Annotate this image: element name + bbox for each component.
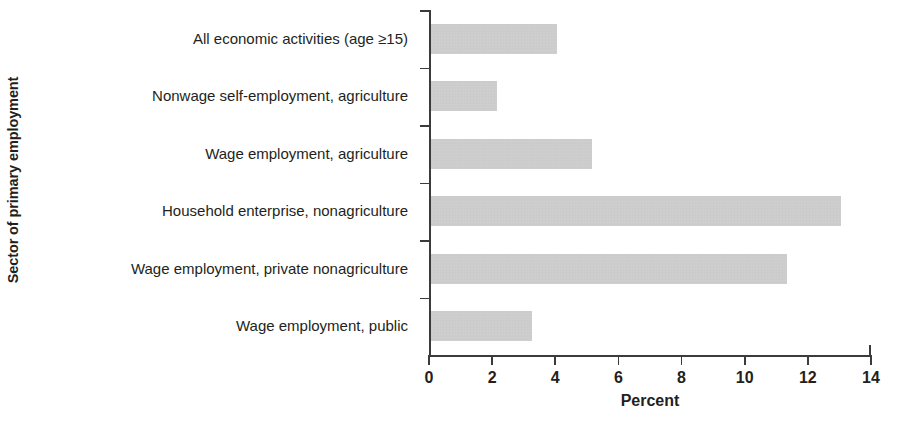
plot-area: 02468101214 <box>429 10 871 355</box>
bar <box>431 24 557 54</box>
bar <box>431 196 841 226</box>
x-axis-title: Percent <box>429 392 871 410</box>
x-axis-tick-label: 0 <box>404 369 454 387</box>
bar <box>431 254 788 284</box>
bar <box>431 81 497 111</box>
y-axis-tick <box>420 240 429 242</box>
x-axis-tick-label: 2 <box>467 369 517 387</box>
y-axis-title: Sector of primary employment <box>0 0 26 360</box>
x-axis-tick <box>870 355 872 365</box>
y-axis-title-text: Sector of primary employment <box>5 77 21 284</box>
category-label-list: All economic activities (age ≥15)Nonwage… <box>30 10 416 347</box>
x-axis-tick-label: 12 <box>783 369 833 387</box>
category-label: All economic activities (age ≥15) <box>193 29 408 49</box>
category-label: Wage employment, agriculture <box>205 144 408 164</box>
y-axis-tick <box>420 298 429 300</box>
category-label: Household enterprise, nonagriculture <box>162 201 408 221</box>
y-axis-top-cap <box>420 10 430 12</box>
x-axis-tick <box>681 355 683 365</box>
x-axis-tick-label: 10 <box>720 369 770 387</box>
x-axis-tick <box>618 355 620 365</box>
x-axis-tick-label: 14 <box>846 369 896 387</box>
bar <box>431 311 532 341</box>
category-label: Wage employment, private nonagriculture <box>131 259 408 279</box>
x-axis-tick <box>491 355 493 365</box>
x-axis-tick-label: 8 <box>657 369 707 387</box>
y-axis-tick <box>420 183 429 185</box>
x-axis-tick <box>554 355 556 365</box>
y-axis-tick <box>420 125 429 127</box>
x-axis-tick-label: 6 <box>593 369 643 387</box>
category-label: Nonwage self-employment, agriculture <box>152 86 408 106</box>
x-axis-line <box>429 355 871 357</box>
category-label: Wage employment, public <box>236 316 408 336</box>
x-axis-tick <box>807 355 809 365</box>
y-axis-line <box>429 10 431 355</box>
x-axis-tick-label: 4 <box>530 369 580 387</box>
y-axis-tick <box>420 68 429 70</box>
x-axis-tick <box>428 355 430 365</box>
bar <box>431 139 592 169</box>
bar-chart: Sector of primary employment All economi… <box>0 0 897 425</box>
x-axis-tick <box>744 355 746 365</box>
